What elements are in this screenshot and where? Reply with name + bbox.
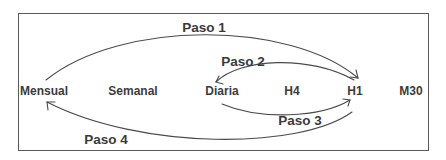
node-semanal: Semanal — [108, 84, 157, 98]
label-paso-1: Paso 1 — [182, 20, 226, 35]
node-diaria: Diaria — [205, 84, 238, 98]
node-h1: H1 — [347, 84, 362, 98]
label-paso-2: Paso 2 — [221, 54, 265, 69]
node-h4: H4 — [284, 84, 299, 98]
arrow-paso-1 — [46, 35, 358, 80]
node-mensual: Mensual — [20, 84, 68, 98]
label-paso-4: Paso 4 — [84, 132, 128, 147]
label-paso-3: Paso 3 — [278, 113, 322, 128]
node-m30: M30 — [399, 84, 422, 98]
